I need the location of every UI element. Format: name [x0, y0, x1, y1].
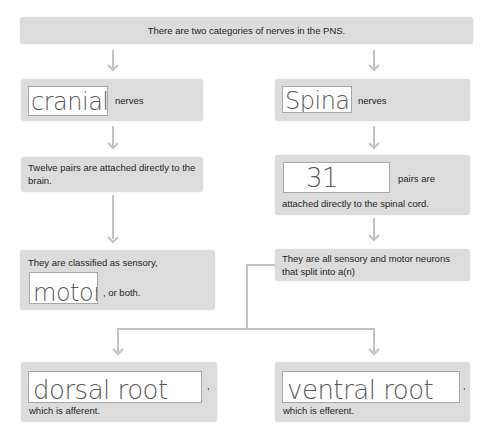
top-statement-box: There are two categories of nerves in th… [20, 17, 473, 44]
branch-connector-horizontal-stub [247, 264, 275, 266]
right-pairs-line2: attached directly to the spinal cord. [282, 197, 429, 210]
dorsal-root-comma: , [207, 379, 210, 392]
pairs-count-answer-field[interactable]: 31 [283, 162, 390, 193]
spinal-answer-field[interactable]: Spinal [282, 86, 352, 113]
classified-suffix: , or both. [103, 286, 141, 299]
arrow-down-icon [368, 142, 380, 150]
ventral-root-answer-field[interactable]: ventral root [282, 371, 460, 403]
motor-answer-field[interactable]: motor [29, 272, 98, 304]
split-text: They are all sensory and motor neurons t… [282, 252, 467, 278]
cranial-answer-field[interactable]: cranial [28, 86, 108, 116]
right-pairs-suffix: pairs are [398, 172, 435, 185]
dorsal-root-suffix: which is afferent. [29, 404, 100, 417]
dorsal-root-box: dorsal root , which is afferent. [21, 362, 217, 422]
arrow-down-icon [107, 236, 119, 244]
arrow-down-icon [107, 142, 119, 150]
right-pairs-box: 31 pairs are attached directly to the sp… [275, 155, 470, 215]
arrow-down-icon [368, 234, 380, 242]
right-split-box: They are all sensory and motor neurons t… [275, 249, 470, 281]
top-statement-text: There are two categories of nerves in th… [20, 24, 473, 37]
left-pairs-text: Twelve pairs are attached directly to th… [28, 161, 200, 187]
arrow-down-icon [107, 64, 119, 72]
connector-left-3-4 [112, 195, 114, 239]
classified-prefix: They are classified as sensory, [28, 256, 158, 269]
right-category-suffix: nerves [358, 94, 387, 107]
ventral-root-suffix: which is efferent. [283, 404, 354, 417]
left-category-suffix: nerves [115, 94, 144, 107]
dorsal-root-answer-field[interactable]: dorsal root [28, 371, 202, 403]
ventral-root-comma: , [463, 379, 466, 392]
right-category-box: Spinal nerves [275, 79, 470, 121]
branch-connector-vertical [246, 264, 248, 330]
branch-connector-horizontal [117, 328, 375, 330]
arrow-down-icon [112, 348, 124, 356]
left-category-box: cranial nerves [21, 79, 203, 121]
arrow-down-icon [368, 348, 380, 356]
left-classified-box: They are classified as sensory, motor , … [20, 250, 215, 310]
arrow-down-icon [368, 64, 380, 72]
ventral-root-box: ventral root , which is efferent. [275, 362, 470, 422]
left-pairs-box: Twelve pairs are attached directly to th… [21, 157, 203, 192]
